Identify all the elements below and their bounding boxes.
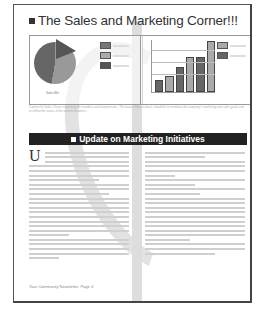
pie-legend xyxy=(100,42,129,69)
chart-caption: Caption for Sales Charts explaining the … xyxy=(29,105,247,113)
bar-plot-area xyxy=(151,40,215,93)
body-column-right xyxy=(145,149,245,257)
legend-item xyxy=(100,62,129,69)
bar xyxy=(207,41,215,92)
page-title-text: The Sales and Marketing Corner!!! xyxy=(38,13,238,28)
legend-item xyxy=(217,42,246,49)
bar xyxy=(176,67,184,92)
drop-cap: U xyxy=(29,149,41,163)
section-heading: Update on Marketing Initiatives xyxy=(79,134,205,144)
bar-chart xyxy=(140,35,252,105)
body-column-left: U xyxy=(29,149,129,262)
bullet-square-icon xyxy=(29,18,35,24)
pie-label: Sales Mix xyxy=(46,91,59,95)
legend-item xyxy=(100,52,129,59)
legend-item xyxy=(217,52,246,59)
page-title: The Sales and Marketing Corner!!! xyxy=(29,13,238,28)
bar xyxy=(165,76,173,92)
bullet-square-icon xyxy=(71,137,76,142)
bar xyxy=(155,80,163,92)
page-footer: Your Community Newsletter, Page 4 xyxy=(29,284,93,289)
newsletter-page: The Sales and Marketing Corner!!! Sales … xyxy=(13,4,252,303)
bar-legend xyxy=(217,42,246,59)
pie-chart: Sales Mix xyxy=(29,35,143,105)
section-banner: Update on Marketing Initiatives xyxy=(29,133,247,145)
legend-item xyxy=(100,42,129,49)
